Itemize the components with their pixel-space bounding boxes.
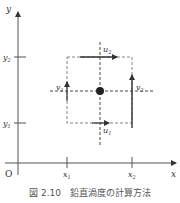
v1-label: v1 bbox=[56, 83, 64, 93]
origin-label: O bbox=[5, 169, 12, 179]
figure-caption: 図 2.10 鉛直渦度の計算方法 bbox=[0, 186, 180, 199]
y2-tick-label: y2 bbox=[2, 53, 11, 63]
vorticity-diagram: y x O y2 y1 x1 x2 u2 u1 v1 v2 bbox=[0, 0, 180, 203]
x1-tick-label: x1 bbox=[63, 170, 71, 180]
v2-label: v2 bbox=[136, 83, 144, 93]
x2-tick-label: x2 bbox=[128, 170, 136, 180]
y-axis-label: y bbox=[5, 4, 12, 14]
u2-label: u2 bbox=[103, 45, 111, 55]
y1-tick-label: y1 bbox=[2, 119, 11, 129]
center-point bbox=[96, 87, 104, 95]
x-axis-label: x bbox=[171, 169, 176, 179]
u1-label: u1 bbox=[103, 126, 111, 136]
